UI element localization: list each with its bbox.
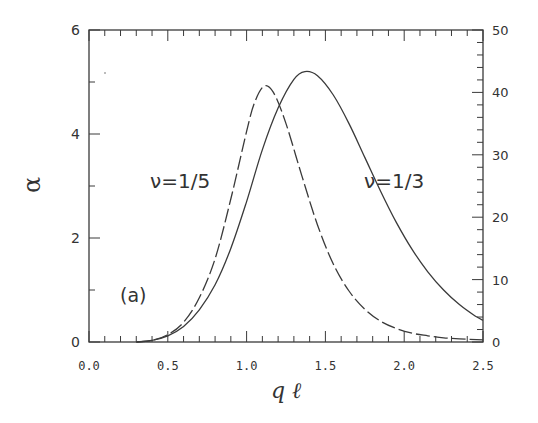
x-tick-label: 2.0 (393, 359, 415, 373)
chart: 0.00.51.01.52.02.5024601020304050 q ℓ α … (0, 0, 538, 423)
series-label-nu-1-3: ν=1/3 (364, 169, 424, 193)
y-tick-label: 6 (71, 22, 80, 38)
y-axis-label: α (18, 177, 46, 193)
y2-tick-label: 10 (492, 273, 509, 288)
series-label-nu-1-5: ν=1/5 (150, 169, 210, 193)
y2-tick-label: 40 (492, 85, 509, 100)
x-axis-label: q ℓ (271, 378, 302, 403)
x-tick-label: 1.5 (315, 359, 337, 373)
speck-dot (104, 72, 106, 74)
y2-tick-label: 30 (492, 148, 509, 163)
x-tick-label: 0.5 (157, 359, 179, 373)
y-tick-label: 0 (71, 334, 80, 350)
y-tick-label: 4 (71, 126, 80, 142)
x-tick-label: 1.0 (236, 359, 258, 373)
y2-tick-label: 0 (492, 335, 500, 350)
curve-nu-1-3-solid (136, 71, 483, 342)
curves (136, 71, 483, 342)
y2-tick-label: 20 (492, 210, 509, 225)
panel-label: (a) (120, 284, 146, 306)
y-tick-label: 2 (71, 230, 80, 246)
y2-tick-label: 50 (492, 23, 509, 38)
x-tick-label: 2.5 (472, 359, 494, 373)
x-tick-label: 0.0 (78, 359, 100, 373)
curve-nu-1-5-dashed (136, 86, 483, 342)
tick-labels: 0.00.51.01.52.02.5024601020304050 (71, 22, 508, 373)
